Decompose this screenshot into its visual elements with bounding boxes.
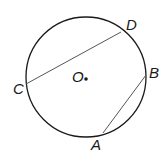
label-d: D	[126, 16, 137, 33]
circle-diagram: O D C B A	[0, 0, 162, 154]
label-a: A	[90, 136, 101, 153]
label-b: B	[149, 64, 159, 81]
label-o: O	[72, 68, 84, 85]
center-point	[84, 77, 88, 81]
label-c: C	[13, 80, 24, 97]
circle-o	[26, 17, 146, 137]
